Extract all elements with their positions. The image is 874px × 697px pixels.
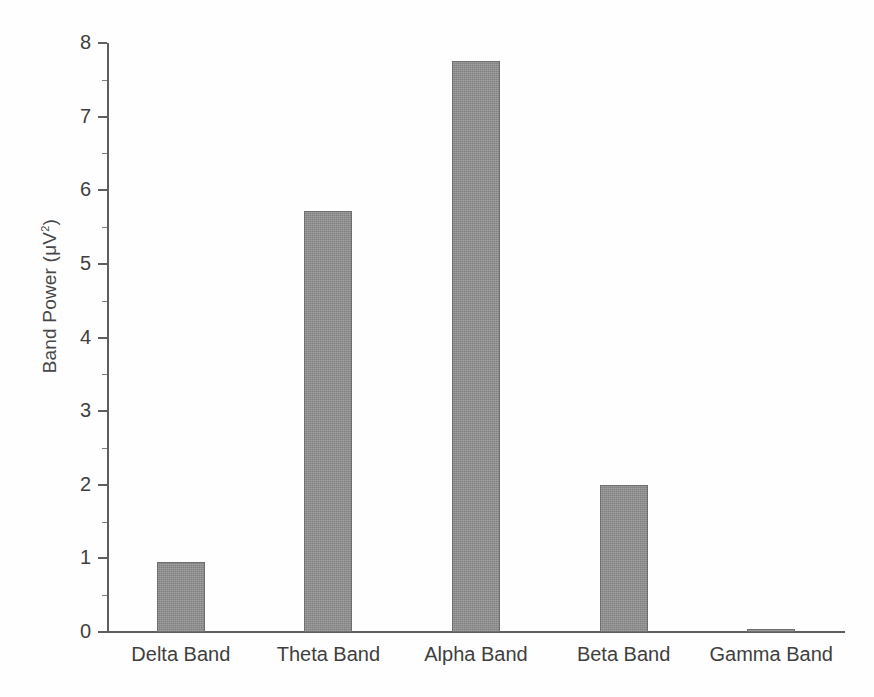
- y-tick-minor: [102, 153, 107, 154]
- y-tick-major: [98, 337, 107, 339]
- bar-theta-band[interactable]: [304, 211, 352, 632]
- y-tick-label: 5: [47, 253, 91, 273]
- y-tick-label: 4: [47, 327, 91, 347]
- y-axis-line: [107, 43, 109, 632]
- y-tick-label: 7: [47, 106, 91, 126]
- y-tick-label: 2: [47, 474, 91, 494]
- bar-alpha-band[interactable]: [452, 61, 500, 632]
- x-tick-label-beta-band: Beta Band: [539, 643, 709, 666]
- x-tick-label-gamma-band: Gamma Band: [686, 643, 856, 666]
- plot-area: 012345678 Delta BandTheta BandAlpha Band…: [107, 43, 845, 632]
- x-tick-label-delta-band: Delta Band: [96, 643, 266, 666]
- bar-chart-figure: Band Power (μV2) 012345678 Delta BandThe…: [0, 0, 874, 697]
- y-tick-label: 1: [47, 547, 91, 567]
- bar-beta-band[interactable]: [600, 485, 648, 632]
- y-tick-minor: [102, 448, 107, 449]
- y-tick-major: [98, 116, 107, 118]
- y-axis-title-close: ): [39, 219, 60, 226]
- x-tick-label-alpha-band: Alpha Band: [391, 643, 561, 666]
- y-tick-minor: [102, 595, 107, 596]
- y-tick-label: 0: [47, 621, 91, 641]
- y-tick-label: 6: [47, 179, 91, 199]
- x-tick-label-theta-band: Theta Band: [243, 643, 413, 666]
- y-tick-major: [98, 410, 107, 412]
- y-tick-major: [98, 42, 107, 44]
- y-tick-major: [98, 557, 107, 559]
- y-tick-major: [98, 484, 107, 486]
- y-tick-major: [98, 631, 107, 633]
- y-tick-minor: [102, 301, 107, 302]
- bar-gamma-band[interactable]: [747, 629, 795, 632]
- y-tick-label: 3: [47, 400, 91, 420]
- y-tick-minor: [102, 80, 107, 81]
- y-tick-major: [98, 189, 107, 191]
- y-tick-minor: [102, 522, 107, 523]
- y-axis-title-superscript: 2: [39, 225, 51, 231]
- bar-delta-band[interactable]: [157, 562, 205, 632]
- y-tick-minor: [102, 227, 107, 228]
- y-tick-label: 8: [47, 32, 91, 52]
- y-tick-minor: [102, 374, 107, 375]
- y-axis-title: Band Power (μV2): [39, 186, 61, 406]
- y-tick-major: [98, 263, 107, 265]
